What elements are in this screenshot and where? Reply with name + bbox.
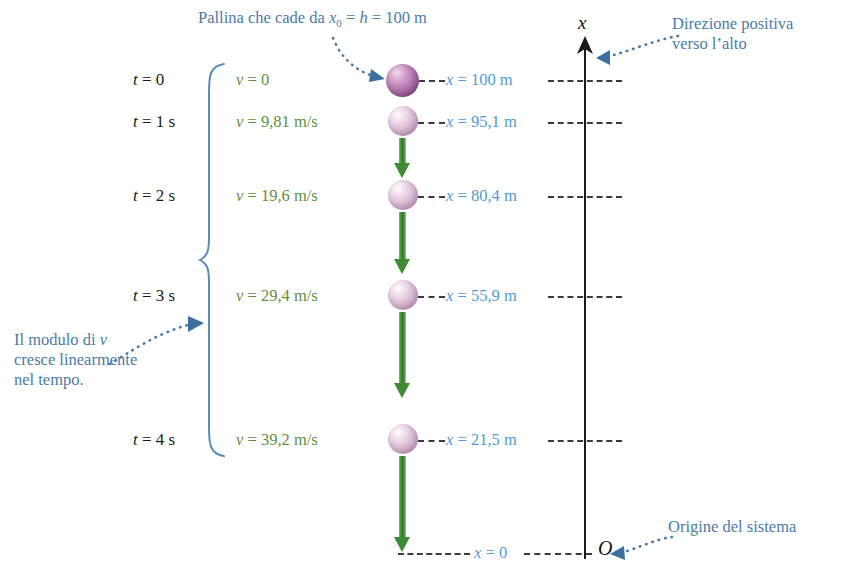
velocity-rest-0: = 0 (243, 70, 269, 89)
drop-annotation-eq2: = 100 m (368, 8, 427, 27)
velocity-label-1: v = 9,81 m/s (236, 112, 318, 132)
velocity-arrow-shaft-4 (399, 456, 406, 538)
velocity-rest-3: = 29,4 m/s (243, 286, 317, 305)
position-label-1: x = 95,1 m (446, 112, 517, 132)
ball-3 (388, 280, 418, 310)
position-rest-3: = 55,9 m (453, 286, 516, 305)
origin-annotation: Origine del sistema (668, 517, 796, 537)
position-dash-left-3 (418, 296, 445, 298)
position-label-2: x = 80,4 m (446, 186, 517, 206)
position-rest-4: = 21,5 m (453, 430, 516, 449)
velocity-arrow-shaft-2 (399, 212, 406, 260)
velocity-rest-4: = 39,2 m/s (243, 430, 317, 449)
velocity-rest-2: = 19,6 m/s (243, 186, 317, 205)
ball-0 (386, 64, 419, 97)
position-rest-2: = 80,4 m (453, 186, 516, 205)
velocity-label-0: v = 0 (236, 70, 269, 90)
origin-callout-arrow (608, 533, 680, 565)
time-label-1: t = 1 s (133, 112, 175, 132)
positive-direction-annotation: Direzione positiva verso l’alto (672, 14, 793, 54)
time-label-0: t = 0 (133, 70, 164, 90)
velocity-arrow-shaft-3 (399, 312, 406, 384)
position-label-4: x = 21,5 m (446, 430, 517, 450)
time-rest-0: = 0 (138, 70, 165, 89)
positive-direction-line2: verso l’alto (672, 34, 793, 54)
axis-tick-1 (548, 122, 622, 124)
velocity-label-2: v = 19,6 m/s (236, 186, 318, 206)
axis-tick-4 (548, 440, 622, 442)
velocity-arrow-head-1 (394, 163, 410, 178)
ball-4 (388, 424, 418, 454)
velocity-arrow-head-2 (394, 259, 410, 274)
linear-growth-line3: nel tempo. (14, 370, 137, 390)
ball-1 (388, 106, 418, 136)
velocity-arrow-head-3 (394, 383, 410, 398)
x-axis-arrowhead (576, 36, 594, 56)
positive-direction-line1: Direzione positiva (672, 14, 793, 34)
zero-position-value: = 0 (481, 543, 507, 562)
time-rest-3: = 3 s (138, 286, 175, 305)
position-label-3: x = 55,9 m (446, 286, 517, 306)
drop-annotation-h-var: h (359, 8, 367, 27)
origin-annotation-text: Origine del sistema (668, 517, 796, 536)
drop-annotation-eq1: = (342, 8, 360, 27)
position-dash-left-4 (418, 440, 445, 442)
position-dash-left-0 (419, 80, 445, 82)
velocity-rest-1: = 9,81 m/s (243, 112, 317, 131)
axis-tick-0 (548, 80, 622, 82)
free-fall-diagram: Pallina che cade da x0 = h = 100 m Direz… (0, 0, 862, 577)
linear-growth-v-var: v (100, 330, 107, 349)
origin-symbol: O (598, 537, 612, 560)
time-rest-4: = 4 s (138, 430, 175, 449)
time-label-3: t = 3 s (133, 286, 175, 306)
positive-direction-callout-arrow (592, 30, 684, 72)
axis-tick-3 (548, 296, 622, 298)
x-axis-label: x (578, 12, 586, 34)
position-label-0: x = 100 m (446, 70, 513, 90)
time-rest-2: = 2 s (138, 186, 175, 205)
zero-position-label: x = 0 (474, 543, 507, 563)
position-rest-0: = 100 m (453, 70, 512, 89)
velocity-arrow-shaft-1 (399, 138, 406, 164)
velocity-arrow-head-4 (394, 537, 410, 552)
axis-tick-2 (548, 196, 622, 198)
position-dash-left-2 (418, 196, 445, 198)
time-label-4: t = 4 s (133, 430, 175, 450)
time-label-2: t = 2 s (133, 186, 175, 206)
velocity-label-4: v = 39,2 m/s (236, 430, 318, 450)
velocity-label-3: v = 29,4 m/s (236, 286, 318, 306)
position-dash-left-1 (418, 122, 445, 124)
ball-2 (388, 180, 418, 210)
time-range-brace (198, 62, 228, 458)
ground-dash-left (398, 553, 470, 555)
position-rest-1: = 95,1 m (453, 112, 516, 131)
time-rest-1: = 1 s (138, 112, 175, 131)
ground-dash-right (524, 553, 592, 555)
drop-annotation-text: Pallina che cade da (198, 8, 329, 27)
